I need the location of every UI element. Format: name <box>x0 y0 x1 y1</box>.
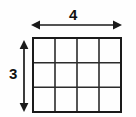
width-arrow-head-left <box>31 21 40 30</box>
height-dimension-arrow <box>20 40 29 112</box>
height-arrow-head-top <box>20 40 29 49</box>
height-dimension-label: 3 <box>9 66 17 81</box>
grid-interior-lines <box>33 38 121 112</box>
area-model-figure: 4 3 <box>0 0 136 117</box>
width-arrow-head-right <box>113 21 122 30</box>
width-dimension-label: 4 <box>69 7 77 22</box>
diagram-canvas <box>0 0 136 117</box>
height-arrow-head-bottom <box>20 103 29 112</box>
